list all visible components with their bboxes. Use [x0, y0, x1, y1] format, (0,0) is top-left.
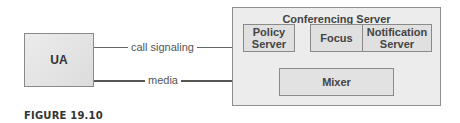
ua-label: UA [50, 54, 67, 66]
focus-box: Focus [310, 24, 363, 52]
focus-label: Focus [320, 32, 352, 44]
mixer-label: Mixer [322, 76, 351, 88]
policy-server-label: PolicyServer [252, 26, 286, 50]
notification-server-label: NotificationServer [367, 26, 428, 50]
policy-server-box: PolicyServer [243, 24, 295, 52]
notification-server-box: NotificationServer [362, 24, 432, 52]
figure-caption: FIGURE 19.10 [24, 110, 103, 121]
media-label: media [145, 74, 181, 86]
ua-box: UA [24, 33, 94, 87]
call-signaling-label: call signaling [128, 41, 197, 53]
mixer-box: Mixer [279, 68, 394, 96]
